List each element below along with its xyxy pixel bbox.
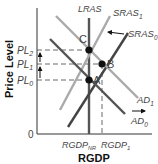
origin-label: 0 [28, 129, 34, 140]
ad0-label-sub: 0 [144, 121, 148, 128]
rgdp1-label: RGDP1 [101, 140, 130, 151]
pl1-label-sub: 1 [29, 64, 33, 71]
rgdp1-label-sub: 1 [127, 145, 130, 151]
pl1-label-base: PL [17, 59, 29, 70]
sras1-label-sub: 1 [139, 13, 143, 20]
rgdp-nr-label-sub: NR [88, 145, 96, 151]
pl2-label: PL2 [17, 45, 33, 57]
sras0-label: SRAS0 [128, 28, 158, 41]
point-c [85, 46, 92, 53]
pl2-label-sub: 2 [28, 50, 33, 57]
pl2-label-base: PL [17, 45, 29, 56]
point-b-label: B [107, 58, 114, 70]
point-b [98, 60, 105, 67]
x-axis-title: RGDP [78, 152, 110, 164]
ad1-label-sub: 1 [150, 100, 154, 107]
pl0-label: PL0 [17, 75, 33, 87]
ad1-label: AD1 [136, 94, 154, 107]
ad1-label-base: AD [136, 94, 150, 105]
sras0-label-sub: 0 [154, 34, 158, 41]
sras-shift-arrow [108, 32, 124, 34]
sras1-label-base: SRAS [113, 7, 140, 18]
rgdp1-label-base: RGDP [101, 140, 127, 150]
lras-label: LRAS [78, 4, 102, 14]
rgdp-nr-label: RGDPNR [62, 140, 96, 151]
pl0-label-sub: 0 [29, 80, 33, 87]
sras1-label: SRAS1 [113, 7, 143, 20]
sras0-label-base: SRAS [128, 28, 155, 39]
pl0-label-base: PL [17, 75, 29, 86]
ad-as-diagram: C B A LRAS SRAS1 SRAS0 AD1 AD0 PL2 PL1 P… [0, 0, 158, 164]
ad0-label: AD0 [130, 115, 148, 128]
point-c-label: C [79, 33, 87, 45]
rgdp-nr-label-base: RGDP [62, 140, 88, 150]
point-a-label: A [93, 74, 101, 86]
ad0-label-base: AD [130, 115, 144, 126]
y-axis-title: Price Level [3, 40, 15, 98]
pl1-label: PL1 [17, 59, 33, 71]
point-a [85, 76, 92, 83]
